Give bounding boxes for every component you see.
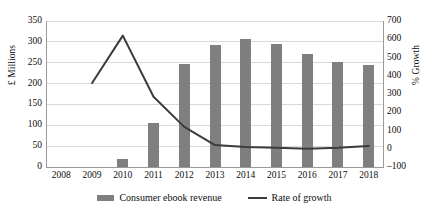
y-axis-right-tick-label: 600 xyxy=(387,34,401,44)
x-axis-tick-label: 2008 xyxy=(46,170,77,180)
y-axis-left-tick-label: 100 xyxy=(28,120,42,130)
x-axis-tick-label: 2014 xyxy=(230,170,261,180)
chart-legend: Consumer ebook revenue Rate of growth xyxy=(0,192,429,203)
y-axis-right-tick-label: 100 xyxy=(387,126,401,136)
y-axis-left-tick-label: 200 xyxy=(28,79,42,89)
y-axis-left-tick-label: 350 xyxy=(28,16,42,26)
y-axis-right-tick-label: 200 xyxy=(387,107,401,117)
legend-label-growth: Rate of growth xyxy=(272,192,332,203)
chart-container: £ Millions % Growth 35030025020015010050… xyxy=(0,0,429,213)
x-axis-tick-label: 2011 xyxy=(138,170,169,180)
x-axis-tick-label: 2010 xyxy=(107,170,138,180)
x-axis-tick-label: 2009 xyxy=(77,170,108,180)
y-axis-left-tick-label: 0 xyxy=(37,162,42,172)
x-axis-line xyxy=(46,167,384,168)
y-axis-right-tick-label: 500 xyxy=(387,53,401,63)
y-axis-right-tick-label: 700 xyxy=(387,16,401,26)
x-axis-tick-label: 2013 xyxy=(200,170,231,180)
y-axis-right-tick-label: 300 xyxy=(387,89,401,99)
x-axis-tick-label: 2018 xyxy=(353,170,384,180)
x-axis-tick-label: 2017 xyxy=(323,170,354,180)
y-axis-left-tick-label: 250 xyxy=(28,58,42,68)
x-axis-tick-label: 2016 xyxy=(292,170,323,180)
growth-line xyxy=(92,36,369,149)
x-axis-ticks: 2008200920102011201220132014201520162017… xyxy=(46,170,384,184)
plot-area xyxy=(46,21,384,167)
legend-label-revenue: Consumer ebook revenue xyxy=(119,192,221,203)
line-series-layer xyxy=(46,21,384,167)
x-axis-tick-label: 2012 xyxy=(169,170,200,180)
legend-item-growth: Rate of growth xyxy=(248,192,332,203)
y-axis-left-tick-label: 150 xyxy=(28,99,42,109)
y-axis-left-tick-label: 50 xyxy=(33,141,43,151)
bar-swatch-icon xyxy=(97,195,114,201)
y-axis-right-tick-label: 0 xyxy=(387,144,392,154)
legend-item-revenue: Consumer ebook revenue xyxy=(97,192,221,203)
line-swatch-icon xyxy=(248,197,267,199)
y-axis-right-tick-label: 400 xyxy=(387,71,401,81)
y-axis-right-tick-label: –100 xyxy=(387,162,406,172)
y-axis-right-ticks: 7006005004003002001000–100 xyxy=(387,0,419,213)
y-axis-left-tick-label: 300 xyxy=(28,37,42,47)
y-axis-left-ticks: 350300250200150100500 xyxy=(10,0,42,213)
x-axis-tick-label: 2015 xyxy=(261,170,292,180)
